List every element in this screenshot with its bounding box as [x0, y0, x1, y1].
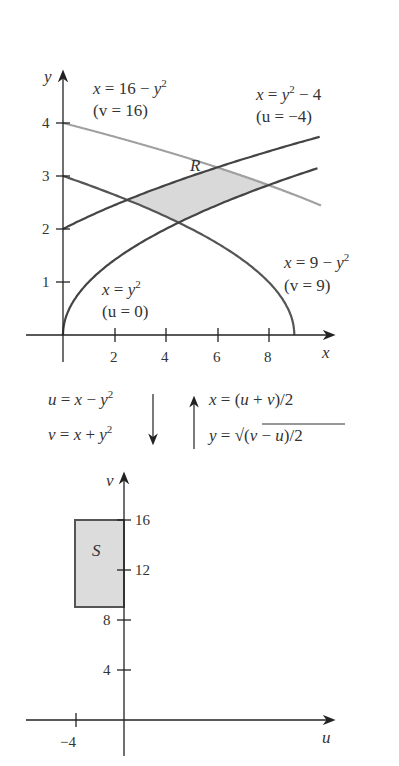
bottom-plot: 4 8 12 16 −4 u v S — [26, 471, 333, 756]
y-tick-4: 4 — [42, 115, 50, 131]
v-tick-12: 12 — [135, 562, 150, 578]
forward-v: v = x + y2 — [48, 423, 112, 444]
v-tick-4: 4 — [103, 662, 111, 678]
v-tick-16: 16 — [135, 512, 151, 528]
y-tick-1: 1 — [42, 274, 50, 290]
label-u0-eq: x = y2 — [101, 278, 141, 299]
y-axis-label: y — [42, 67, 52, 86]
inverse-x: x = (u + v)/2 — [208, 390, 293, 409]
x-axis-label: x — [321, 343, 330, 362]
x-tick-8: 8 — [264, 349, 272, 365]
region-s — [75, 520, 124, 607]
v-tick-8: 8 — [103, 612, 111, 628]
x-tick-6: 6 — [213, 349, 221, 365]
label-v9-eq: x = 9 − y2 — [283, 251, 349, 272]
diagram-canvas: 1 2 3 4 2 4 6 8 x y R x = 16 − y2 (v = 1… — [0, 0, 399, 766]
label-um4-eq: x = y2 − 4 — [255, 83, 322, 104]
u-tick-neg4-label: −4 — [60, 734, 76, 750]
region-s-label: S — [92, 541, 101, 560]
transformation: u = x − y2 v = x + y2 x = (u + v)/2 y = … — [48, 388, 345, 449]
label-u0-param: (u = 0) — [102, 302, 148, 321]
v-axis-label: v — [106, 471, 114, 490]
forward-u: u = x − y2 — [48, 388, 113, 409]
label-v16-eq: x = 16 − y2 — [92, 77, 167, 98]
u-axis-label: u — [322, 728, 331, 747]
label-um4-param: (u = −4) — [256, 107, 312, 126]
x-tick-4: 4 — [161, 349, 169, 365]
region-r-label: R — [189, 156, 201, 175]
y-tick-3: 3 — [42, 168, 50, 184]
inverse-y: y = √(v − u)/2 — [207, 426, 303, 445]
label-v16-param: (v = 16) — [93, 101, 148, 120]
y-tick-2: 2 — [42, 221, 50, 237]
top-plot: 1 2 3 4 2 4 6 8 x y R x = 16 − y2 (v = 1… — [26, 67, 349, 365]
x-tick-2: 2 — [110, 349, 118, 365]
label-v9-param: (v = 9) — [284, 276, 330, 295]
